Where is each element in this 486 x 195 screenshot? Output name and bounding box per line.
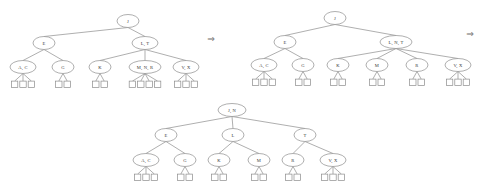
- tree-edge: [166, 117, 232, 129]
- node-label: K: [336, 63, 340, 68]
- node-label: T: [303, 133, 306, 138]
- node-label: E: [42, 41, 45, 46]
- leaf-box: [410, 79, 416, 85]
- tree-edge: [100, 50, 145, 61]
- tree-edge: [259, 167, 263, 175]
- btree-split-figure: A, CGEKM, N, RV, XL, TJA, CGEKMRV, XL, N…: [0, 0, 486, 195]
- tree-edge: [219, 142, 233, 154]
- tree-edge: [219, 167, 223, 175]
- tree-edge: [373, 72, 377, 80]
- leaf-box: [154, 81, 160, 87]
- tree-edge: [63, 74, 67, 82]
- tree-edge: [96, 74, 100, 82]
- tree-edge: [23, 50, 44, 61]
- node-label: M: [257, 158, 261, 163]
- tree-edge: [396, 49, 458, 59]
- tree-edge: [44, 50, 63, 61]
- leaf-box: [296, 79, 302, 85]
- tree-edge: [44, 28, 128, 37]
- tree-edge: [417, 72, 421, 80]
- leaf-box: [28, 81, 34, 87]
- node-label: E: [283, 40, 286, 45]
- leaf-box: [178, 174, 184, 180]
- leaf-box: [11, 81, 17, 87]
- leaf-box: [418, 79, 424, 85]
- leaf-box: [286, 174, 292, 180]
- leaf-box: [370, 79, 376, 85]
- leaf-box: [93, 81, 99, 87]
- node-label: J: [127, 19, 129, 24]
- leaf-box: [151, 174, 157, 180]
- btree-diagram-canvas: A, CGEKM, N, RV, XL, TJA, CGEKMRV, XL, N…: [0, 0, 486, 195]
- leaf-box: [294, 174, 300, 180]
- tree-edge: [232, 117, 233, 129]
- tree-edge: [413, 72, 417, 80]
- arrow-stage1-to-stage2: ⇒: [207, 34, 215, 44]
- tree-edge: [293, 167, 297, 175]
- node-label: K: [98, 65, 102, 70]
- tree-edge: [377, 72, 381, 80]
- leaf-box: [143, 174, 149, 180]
- leaf-box: [56, 81, 62, 87]
- tree-edge: [450, 72, 458, 80]
- arrow-stage2-to-stage3: ⇒: [466, 29, 474, 39]
- tree-edge: [186, 74, 194, 82]
- leaf-box: [252, 79, 258, 85]
- tree-edge: [146, 167, 154, 175]
- tree-edge: [325, 167, 333, 175]
- tree-edge: [285, 25, 335, 36]
- leaf-box: [321, 174, 327, 180]
- leaf-box: [252, 174, 258, 180]
- tree-edge: [264, 49, 285, 59]
- leaf-box: [146, 81, 152, 87]
- tree-edge: [338, 49, 396, 59]
- leaf-box: [304, 79, 310, 85]
- tree-edge: [138, 167, 146, 175]
- leaf-box: [129, 81, 135, 87]
- tree-edge: [256, 72, 264, 80]
- tree-edge: [333, 167, 341, 175]
- tree-edge: [59, 74, 63, 82]
- leaf-box: [378, 79, 384, 85]
- node-label: J: [334, 16, 336, 21]
- tree-edge: [232, 117, 305, 129]
- node-label: G: [183, 158, 187, 163]
- tree-edge: [338, 72, 342, 80]
- tree-edge: [185, 167, 189, 175]
- tree-edge: [23, 74, 31, 82]
- tree-edge: [181, 167, 185, 175]
- leaf-box: [455, 79, 461, 85]
- tree-edge: [305, 142, 333, 154]
- tree-edge: [264, 72, 272, 80]
- tree-edge: [128, 28, 145, 37]
- leaf-box: [191, 81, 197, 87]
- tree-edge: [255, 167, 259, 175]
- tree-edge: [289, 167, 293, 175]
- node-label: L: [231, 133, 234, 138]
- tree-before: A, CGEKM, N, RV, XL, TJ: [10, 15, 199, 88]
- tree-edge: [145, 50, 186, 61]
- arrows-layer: ⇒⇒: [207, 29, 474, 44]
- leaf-box: [339, 79, 345, 85]
- leaf-box: [174, 81, 180, 87]
- leaf-box: [186, 174, 192, 180]
- trees-layer: A, CGEKM, N, RV, XL, TJA, CGEKMRV, XL, N…: [10, 12, 471, 181]
- tree-edge: [146, 142, 166, 154]
- tree-edge: [303, 72, 307, 80]
- tree-edge: [299, 72, 303, 80]
- node-label: G: [61, 65, 65, 70]
- leaf-box: [338, 174, 344, 180]
- leaf-box: [101, 81, 107, 87]
- leaf-box: [269, 79, 275, 85]
- leaf-box: [138, 81, 144, 87]
- leaf-box: [463, 79, 469, 85]
- node-label: G: [301, 63, 305, 68]
- tree-edge: [334, 72, 338, 80]
- leaf-box: [220, 174, 226, 180]
- tree-edge: [166, 142, 185, 154]
- leaf-box: [331, 79, 337, 85]
- leaf-box: [134, 174, 140, 180]
- tree-edge: [285, 49, 303, 59]
- tree-after-root-split: A, CGEKMLRV, XTJ, N: [133, 104, 346, 181]
- tree-edge: [293, 142, 305, 154]
